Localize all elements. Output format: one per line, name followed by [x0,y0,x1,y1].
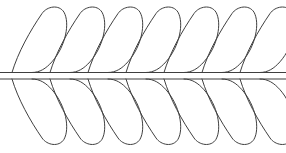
feather-pattern-canvas [0,0,286,153]
feather-diagram [0,0,286,153]
